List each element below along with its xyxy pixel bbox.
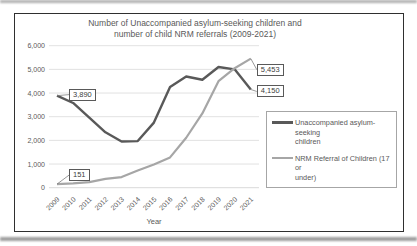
legend-item-uasc: Unaccompanied asylum-seeking children <box>272 118 393 147</box>
legend-label-nrm-line2: under) <box>295 173 316 182</box>
data-label-151: 151 <box>69 169 90 181</box>
x-tick-label: 2020 <box>222 195 238 211</box>
x-tick-label: 2011 <box>77 195 93 211</box>
x-tick-label: 2016 <box>158 195 174 211</box>
legend-label-nrm-line1: NRM Referral of Children (17 or <box>295 154 390 173</box>
y-tick-label: 6,000 <box>27 42 45 49</box>
x-tick-label: 2012 <box>93 195 109 211</box>
callout-connector <box>57 95 69 96</box>
legend-item-nrm: NRM Referral of Children (17 or under) <box>272 154 393 183</box>
bottom-edge-artifact <box>0 237 417 241</box>
legend: Unaccompanied asylum-seeking children NR… <box>266 111 397 188</box>
y-tick-label: 5,000 <box>27 66 45 73</box>
x-tick-label: 2010 <box>61 195 77 211</box>
legend-line-swatch-nrm <box>272 157 293 160</box>
x-tick-label: 2015 <box>142 195 158 211</box>
x-tick-label: 2019 <box>206 195 222 211</box>
top-edge-artifact <box>0 0 417 3</box>
data-label-5453: 5,453 <box>257 64 284 76</box>
x-axis-title: Year <box>15 217 293 226</box>
x-tick-label: 2013 <box>109 195 125 211</box>
data-label-4150: 4,150 <box>257 85 284 97</box>
y-tick-label: 3,000 <box>27 113 45 120</box>
legend-label-uasc-line1: Unaccompanied asylum-seeking <box>295 118 375 137</box>
data-label-3890: 3,890 <box>69 89 96 101</box>
y-tick-label: 1,000 <box>27 161 45 168</box>
legend-label-uasc-line2: children <box>295 137 321 146</box>
x-tick-label: 2018 <box>190 195 206 211</box>
y-tick-label: 0 <box>41 184 45 191</box>
x-tick-label: 2017 <box>174 195 190 211</box>
x-tick-label: 2014 <box>125 195 141 211</box>
legend-label-uasc: Unaccompanied asylum-seeking children <box>295 118 393 147</box>
x-tick-label: 2021 <box>239 195 255 211</box>
y-tick-label: 2,000 <box>27 137 45 144</box>
chart-frame: Number of Unaccompanied asylum-seeking c… <box>14 13 404 232</box>
legend-line-swatch-uasc <box>272 121 293 124</box>
screenshot-root: Number of Unaccompanied asylum-seeking c… <box>0 0 417 246</box>
legend-label-nrm: NRM Referral of Children (17 or under) <box>295 154 393 183</box>
x-tick-label: 2009 <box>45 195 61 211</box>
y-tick-label: 4,000 <box>27 90 45 97</box>
